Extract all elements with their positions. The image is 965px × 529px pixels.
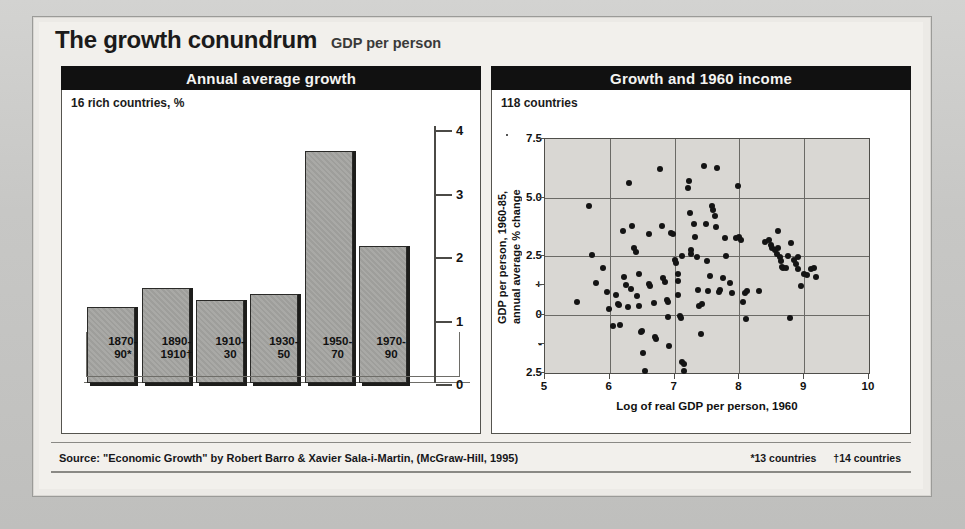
scatter-point <box>620 228 626 234</box>
scatter-point <box>695 287 701 293</box>
scatter-gridline-horizontal <box>545 198 869 199</box>
panel-left-note: 16 rich countries, % <box>71 96 184 110</box>
scatter-point <box>634 293 640 299</box>
scatter-point <box>795 254 801 260</box>
scatter-point <box>743 316 749 322</box>
scatter-point <box>616 302 622 308</box>
scatter-y-tick-mark <box>538 314 544 315</box>
bar-axis-tick-label: 4 <box>456 123 470 138</box>
scatter-point <box>604 289 610 295</box>
scatter-point <box>636 271 642 277</box>
scatter-point <box>628 286 634 292</box>
scatter-x-tick-mark <box>609 373 610 379</box>
scatter-point <box>687 210 693 216</box>
scatter-point <box>691 221 697 227</box>
scatter-point <box>681 361 687 367</box>
bar-category-label-line: 50 <box>257 348 311 361</box>
bar-axis-tick-label: 3 <box>456 186 470 201</box>
scatter-y-tick-label: 0 <box>506 308 542 320</box>
scatter-point <box>574 299 580 305</box>
scatter-point <box>640 350 646 356</box>
bar-category-label: 1930-50 <box>257 335 311 377</box>
scatter-point <box>788 240 794 246</box>
scatter-point <box>666 343 672 349</box>
figure-card-inner: The growth conundrum GDP per person Annu… <box>39 22 923 489</box>
scatter-point <box>617 322 623 328</box>
scatter-point <box>670 231 676 237</box>
scatter-point <box>716 289 722 295</box>
panel-left-heading: Annual average growth <box>61 66 481 90</box>
bar-category-label-line: 90* <box>96 348 150 361</box>
scatter-point <box>659 223 665 229</box>
scatter-y-tick-label: 2.5 <box>506 366 542 378</box>
scatter-point <box>787 315 793 321</box>
scatter-x-tick-label: 5 <box>532 380 556 392</box>
scatter-point <box>738 237 744 243</box>
scatter-point <box>678 315 684 321</box>
scatter-point <box>705 288 711 294</box>
source-text: Source: "Economic Growth" by Robert Barr… <box>59 452 518 464</box>
scatter-point <box>681 368 687 374</box>
scatter-point <box>785 253 791 259</box>
scatter-point <box>795 266 801 272</box>
scatter-point <box>775 228 781 234</box>
scatter-point <box>610 323 616 329</box>
scatter-point <box>699 301 705 307</box>
scatter-x-tick-label: 6 <box>597 380 621 392</box>
page-subtitle: GDP per person <box>331 35 441 51</box>
scatter-point <box>665 314 671 320</box>
scatter-x-axis-label: Log of real GDP per person, 1960 <box>544 400 870 412</box>
scatter-point <box>701 163 707 169</box>
footer-rule <box>51 471 911 473</box>
scatter-y-tick-label: + <box>506 278 542 290</box>
scatter-point <box>636 303 642 309</box>
scatter-y-tick-label: 7.5 <box>506 132 542 144</box>
scatter-point <box>625 304 631 310</box>
scatter-point <box>729 290 735 296</box>
bar-category-label: 1890-1910† <box>150 335 204 377</box>
bar-category-label: 1970-90 <box>364 335 418 377</box>
scatter-point <box>707 273 713 279</box>
scatter-point <box>621 274 627 280</box>
scatter-point <box>713 224 719 230</box>
scatter-point <box>756 288 762 294</box>
scatter-gridline-horizontal <box>545 315 869 316</box>
bar-category-label-line: 30 <box>203 348 257 361</box>
scatter-y-tick-label: 5.0 <box>506 191 542 203</box>
panel-right-note: 118 countries <box>501 96 578 110</box>
scatter-point <box>613 292 619 298</box>
bar-axis-tick <box>436 321 452 323</box>
bar-axis-tick <box>436 257 452 259</box>
scatter-point <box>665 299 671 305</box>
scatter-point <box>642 368 648 374</box>
scatter-point <box>679 253 685 259</box>
scatter-point <box>646 231 652 237</box>
panel-annual-average-growth: Annual average growth 16 rich countries,… <box>61 66 481 436</box>
scatter-y-tick-mark <box>538 197 544 198</box>
scatter-point <box>589 252 595 258</box>
scatter-point <box>744 288 750 294</box>
scatter-x-tick-label: 9 <box>791 380 815 392</box>
bar-axis-tick <box>436 384 452 386</box>
scatter-point <box>704 258 710 264</box>
scatter-point <box>653 336 659 342</box>
bar-category-label: 1870-90* <box>96 335 150 377</box>
bar-category-label-line: 1970- <box>364 335 418 348</box>
scatter-point <box>633 249 639 255</box>
bar-category-label-line: 1910- <box>203 335 257 348</box>
scatter-point <box>813 274 819 280</box>
scatter-point <box>673 260 679 266</box>
bar-axis-tick-label: 1 <box>456 313 470 328</box>
bar-category-label-line: 90 <box>364 348 418 361</box>
scatter-point <box>811 265 817 271</box>
bar-category-label-line: 70 <box>311 348 365 361</box>
figure-footer: Source: "Economic Growth" by Robert Barr… <box>51 442 911 472</box>
bar-axis-tick-label: 2 <box>456 250 470 265</box>
bar-value-axis <box>434 126 436 383</box>
scanned-page-background: The growth conundrum GDP per person Annu… <box>0 0 965 529</box>
bar-category-label: 1910-30 <box>203 335 257 377</box>
bar-category-label: 1950-70 <box>311 335 365 377</box>
panel-right-heading: Growth and 1960 income <box>491 66 911 90</box>
scatter-point <box>626 180 632 186</box>
scatter-point <box>675 278 681 284</box>
